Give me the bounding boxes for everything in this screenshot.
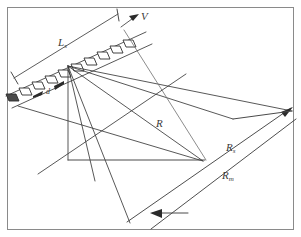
spacing-arrow-left-icon xyxy=(33,91,43,98)
label-element-spacing-base: d xyxy=(46,87,51,96)
label-velocity: V xyxy=(141,10,149,22)
ray-to-target-4 xyxy=(68,66,130,223)
figure-canvas: Ls d V R Rs Rm xyxy=(0,0,301,237)
cross-line-a xyxy=(38,74,186,174)
label-velocity-base: V xyxy=(141,10,149,22)
label-swath-near: Rs xyxy=(225,141,236,155)
label-swath-near-sub: s xyxy=(233,147,236,155)
label-slant-range: R xyxy=(155,117,163,129)
ray-fan xyxy=(68,66,292,223)
aperture-dimension-tick-start xyxy=(11,72,18,84)
array-element xyxy=(45,76,58,83)
ray-to-target-2 xyxy=(68,66,233,119)
right-connector-line xyxy=(233,111,292,119)
ray-to-target-3 xyxy=(68,66,292,111)
array-element xyxy=(110,46,123,53)
figure-border xyxy=(8,8,294,230)
label-slant-range-base: R xyxy=(155,117,163,129)
bottom-range-arrow xyxy=(150,209,188,218)
array-element xyxy=(84,58,97,65)
label-aperture-length-base: L xyxy=(57,36,64,48)
label-aperture-length: Ls xyxy=(57,36,67,50)
ray-to-target-1 xyxy=(68,66,203,161)
velocity-vector xyxy=(121,14,139,27)
label-swath-mid: Rm xyxy=(221,169,234,183)
label-aperture-length-sub: s xyxy=(64,42,67,50)
sar-geometry-figure: Ls d V R Rs Rm xyxy=(0,0,301,237)
aperture-dimension-tick-end xyxy=(117,9,119,21)
secondary-ray-line xyxy=(124,30,206,160)
label-element-spacing: d xyxy=(46,87,51,96)
label-swath-mid-sub: m xyxy=(229,175,234,183)
array-element xyxy=(97,52,110,59)
array-element xyxy=(32,82,45,89)
bottom-arrowhead-icon xyxy=(150,209,162,218)
cross-line-b xyxy=(18,106,203,161)
array-element xyxy=(19,88,32,95)
